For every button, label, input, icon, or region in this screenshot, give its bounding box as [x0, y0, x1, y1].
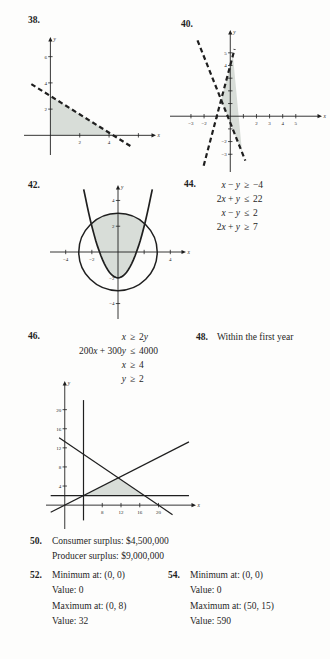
- inequality-lhs: x: [52, 330, 126, 344]
- exercise-38-graph: xy24246: [24, 37, 156, 155]
- svg-text:8: 8: [59, 465, 62, 470]
- inequality-lhs: 2x + y: [204, 192, 240, 206]
- svg-text:8: 8: [101, 510, 104, 515]
- svg-text:y: y: [67, 380, 71, 386]
- inequality-relation: ≤: [240, 206, 253, 220]
- inequality-relation: ≥: [126, 358, 139, 372]
- answer-line: Maximum at: (50, 15): [190, 599, 274, 614]
- inequality-lhs: x − y: [204, 178, 240, 192]
- exercise-number-48: 48.: [196, 332, 208, 343]
- inequality-rhs: 4: [139, 358, 144, 372]
- svg-text:−4: −4: [109, 301, 115, 306]
- svg-text:−4: −4: [63, 257, 69, 262]
- svg-text:y: y: [232, 29, 236, 35]
- inequality-row: 200x + 300y ≤ 4000: [52, 344, 158, 358]
- svg-text:16: 16: [137, 510, 143, 515]
- answer-line: Value: 0: [52, 583, 126, 598]
- svg-text:2: 2: [44, 107, 47, 112]
- svg-text:x: x: [197, 502, 201, 508]
- inequality-lhs: 2x + y: [204, 220, 240, 234]
- inequality-row: x − y ≥ −4: [204, 178, 263, 192]
- inequality-row: 2x + y ≤ 22: [204, 192, 263, 206]
- answer-line: Value: 590: [190, 614, 274, 629]
- exercise-46-system: x ≥ 2y 200x + 300y ≤ 4000 x ≥ 4 y ≥ 2: [52, 330, 158, 386]
- exercise-52-answer: Minimum at: (0, 0) Value: 0 Maximum at: …: [52, 568, 126, 629]
- svg-text:y: y: [52, 36, 56, 42]
- answer-key-page: 38. xy24246 40. xy−3−2234554−2−3 42. xy−…: [0, 0, 330, 659]
- svg-text:16: 16: [56, 427, 62, 432]
- inequality-rhs: 22: [253, 192, 263, 206]
- exercise-42-graph: xy−4−2442−2−4: [50, 185, 186, 319]
- exercise-number-38: 38.: [28, 15, 40, 26]
- exercise-number-42: 42.: [28, 180, 40, 191]
- inequality-rhs: 2y: [139, 330, 148, 344]
- exercise-46-graph: xy812162048121620: [46, 381, 196, 529]
- inequality-relation: ≤: [240, 192, 253, 206]
- inequality-rhs: 7: [253, 220, 258, 234]
- inequality-rhs: −4: [253, 178, 263, 192]
- answer-line: Minimum at: (0, 0): [52, 568, 126, 583]
- exercise-number-40: 40.: [181, 19, 193, 30]
- svg-text:3: 3: [268, 121, 271, 126]
- exercise-number-54: 54.: [168, 570, 180, 581]
- inequality-relation: ≤: [126, 344, 139, 358]
- inequality-row: x ≥ 2y: [52, 330, 158, 344]
- svg-text:4: 4: [224, 63, 227, 68]
- answer-line: Maximum at: (0, 8): [52, 599, 126, 614]
- answer-line: Value: 32: [52, 614, 126, 629]
- exercise-number-44: 44.: [184, 179, 196, 190]
- svg-text:−3: −3: [221, 152, 227, 157]
- inequality-relation: ≥: [240, 220, 253, 234]
- exercise-number-46: 46.: [28, 331, 40, 342]
- inequality-lhs: x: [52, 358, 126, 372]
- inequality-relation: ≥: [126, 330, 139, 344]
- exercise-50-answer: Consumer surplus: $4,500,000 Producer su…: [52, 534, 169, 565]
- svg-text:x: x: [157, 132, 161, 138]
- exercise-number-52: 52.: [30, 570, 42, 581]
- exercise-48-answer: Within the first year: [217, 332, 293, 343]
- inequality-row: 2x + y ≥ 7: [204, 220, 263, 234]
- exercise-40-graph: xy−3−2234554−2−3: [170, 30, 322, 172]
- exercise-44-system: x − y ≥ −4 2x + y ≤ 22 x − y ≤ 2 2x + y …: [204, 178, 263, 234]
- svg-text:−3: −3: [188, 121, 194, 126]
- svg-text:4: 4: [59, 484, 62, 489]
- inequality-rhs: 4000: [139, 344, 158, 358]
- svg-text:4: 4: [44, 81, 47, 86]
- svg-text:4: 4: [169, 257, 172, 262]
- svg-text:12: 12: [119, 510, 125, 515]
- inequality-lhs: 200x + 300y: [52, 344, 126, 358]
- exercise-54-answer: Minimum at: (0, 0) Value: 0 Maximum at: …: [190, 568, 274, 629]
- svg-text:12: 12: [56, 446, 62, 451]
- svg-text:5: 5: [295, 121, 298, 126]
- svg-text:4: 4: [108, 140, 111, 145]
- svg-text:20: 20: [56, 408, 62, 413]
- inequality-row: x ≥ 4: [52, 358, 158, 372]
- inequality-lhs: x − y: [204, 206, 240, 220]
- svg-text:4: 4: [281, 121, 284, 126]
- svg-text:y: y: [120, 184, 124, 190]
- svg-text:x: x: [323, 113, 327, 119]
- inequality-relation: ≥: [240, 178, 253, 192]
- exercise-number-50: 50.: [30, 536, 42, 547]
- svg-text:2: 2: [255, 121, 258, 126]
- svg-text:6: 6: [44, 55, 47, 60]
- answer-line: Value: 0: [190, 583, 274, 598]
- svg-text:−2: −2: [89, 257, 95, 262]
- inequality-row: x − y ≤ 2: [204, 206, 263, 220]
- svg-text:−2: −2: [201, 121, 207, 126]
- answer-line: Consumer surplus: $4,500,000: [52, 534, 169, 549]
- svg-text:2: 2: [78, 140, 81, 145]
- svg-text:−2: −2: [221, 139, 227, 144]
- inequality-rhs: 2: [253, 206, 258, 220]
- svg-text:5: 5: [224, 51, 227, 56]
- answer-line: Minimum at: (0, 0): [190, 568, 274, 583]
- svg-text:4: 4: [112, 198, 115, 203]
- answer-line: Producer surplus: $9,000,000: [52, 549, 169, 564]
- svg-text:x: x: [187, 249, 191, 255]
- svg-text:20: 20: [156, 510, 162, 515]
